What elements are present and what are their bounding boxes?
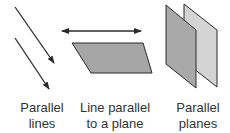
parallel-planes-label-line1: Parallel xyxy=(153,100,230,116)
line-parallel-to-plane-label-line2: to a plane xyxy=(70,116,160,132)
line-parallel-to-plane-figure xyxy=(62,31,152,73)
parallel-planes-figure xyxy=(166,4,217,88)
parallel-planes-label-line2: planes xyxy=(153,116,230,132)
line-parallel-to-plane-label: Line parallel to a plane xyxy=(70,100,160,132)
plane-parallelogram xyxy=(72,43,152,73)
parallel-planes-label: Parallel planes xyxy=(153,100,230,132)
parallel-lines-figure xyxy=(15,7,54,89)
parallel-line-2-arrow xyxy=(15,38,49,89)
line-parallel-to-plane-label-line1: Line parallel xyxy=(70,100,160,116)
parallel-line-1-arrow xyxy=(15,7,54,63)
